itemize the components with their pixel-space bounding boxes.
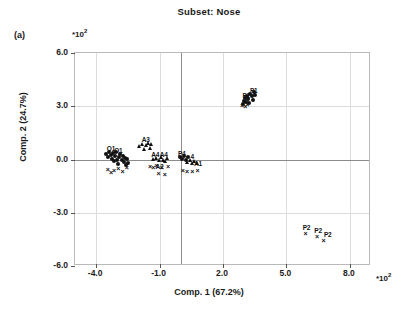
data-point-label: A1 [194, 159, 202, 166]
data-point: × [125, 164, 129, 171]
y-gridline [75, 106, 369, 107]
y-axis-multiplier: *102 [72, 28, 87, 39]
x-tick-label: 2.0 [216, 268, 228, 278]
data-point: × [166, 162, 170, 169]
x-gridline [350, 53, 351, 264]
x-gridline [96, 53, 97, 264]
data-point: × [303, 230, 307, 237]
y-tick-mark [71, 266, 75, 267]
x-tick-label: 8.0 [343, 268, 355, 278]
data-point-label: P1 [242, 92, 250, 99]
x-axis-label: Comp. 1 (67.2%) [0, 287, 418, 297]
data-point: × [245, 100, 249, 107]
x-axis-multiplier-base: *10 [376, 274, 388, 283]
y-axis-label: Comp. 2 (24.7%) [18, 57, 28, 197]
x-tick-label: -4.0 [88, 268, 103, 278]
data-point: × [321, 237, 325, 244]
y-tick-label: 6.0 [38, 47, 68, 57]
x-gridline [223, 53, 224, 264]
y-tick-label: 3.0 [38, 100, 68, 110]
chart-figure: Subset: Nose (a) *102 *102 Comp. 2 (24.7… [0, 0, 418, 317]
data-point: × [163, 170, 167, 177]
y-tick-label: 0.0 [38, 154, 68, 164]
x-axis-multiplier: *102 [376, 272, 391, 283]
panel-label: (a) [14, 30, 25, 40]
data-point [149, 142, 153, 146]
data-point: × [190, 167, 194, 174]
y-tick-label: -6.0 [38, 260, 68, 270]
data-point [142, 147, 146, 151]
data-point-label: P1 [250, 86, 258, 93]
y-tick-mark [71, 106, 75, 107]
data-point: × [196, 166, 200, 173]
x-tick-label: 5.0 [280, 268, 292, 278]
data-point [125, 157, 129, 161]
x-tick-label: -1.0 [151, 268, 166, 278]
data-point-label: P4 [178, 149, 186, 156]
y-tick-label: -3.0 [38, 207, 68, 217]
x-axis-multiplier-exponent: 2 [388, 272, 391, 278]
data-point-label: A2 [156, 163, 164, 170]
data-point-label: P2 [314, 226, 322, 233]
y-tick-mark [71, 53, 75, 54]
y-tick-mark [71, 213, 75, 214]
y-axis-multiplier-exponent: 2 [84, 28, 87, 34]
y-gridline [75, 213, 369, 214]
data-point-label: O1 [114, 146, 122, 153]
data-point-label: A4 [151, 150, 159, 157]
plot-area: ×××××××××××××××××××××××O1O1A3A4A4A2P44A1… [74, 52, 370, 265]
data-point-label: A4 [160, 150, 168, 157]
chart-title: Subset: Nose [0, 6, 418, 17]
data-point: × [185, 168, 189, 175]
data-point-label: P2 [303, 223, 311, 230]
data-point [251, 98, 255, 102]
x-gridline [286, 53, 287, 264]
data-point-label: A3 [142, 136, 150, 143]
data-point-label: P2 [324, 230, 332, 237]
y-axis-multiplier-base: *10 [72, 30, 84, 39]
data-point: × [315, 232, 319, 239]
